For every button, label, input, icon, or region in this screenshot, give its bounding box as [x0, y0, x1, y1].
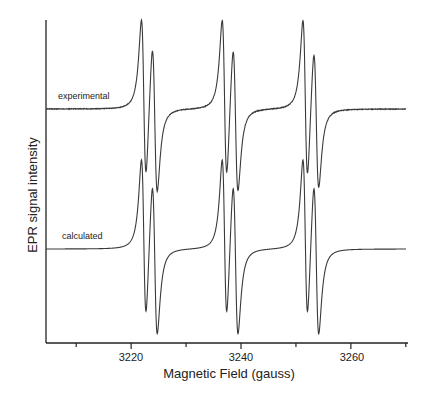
epr-chart: 3220 3240 3260 Magnetic Field (gauss) EP…: [0, 0, 436, 397]
x-tick-label-3220: 3220: [119, 351, 143, 363]
calculated-trace: [46, 160, 406, 334]
x-axis-label: Magnetic Field (gauss): [163, 366, 295, 381]
x-axis-ticks: [76, 343, 406, 349]
x-tick-label-3260: 3260: [340, 351, 364, 363]
calculated-label: calculated: [62, 231, 103, 241]
experimental-label: experimental: [58, 91, 110, 101]
x-tick-label-3240: 3240: [229, 351, 253, 363]
y-axis-label: EPR signal intensity: [25, 137, 40, 253]
experimental-trace: [46, 20, 406, 191]
